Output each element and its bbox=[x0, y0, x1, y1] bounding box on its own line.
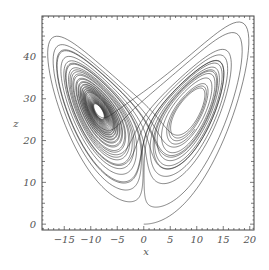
x-tick-label: −15 bbox=[54, 234, 75, 245]
x-tick-label: −5 bbox=[110, 234, 125, 245]
x-tick-label: 10 bbox=[190, 234, 203, 245]
lorenz-plot: −15−10−505101520 010203040 x z bbox=[0, 0, 269, 270]
x-tick-label: 5 bbox=[167, 234, 173, 245]
y-tick-label: 10 bbox=[23, 177, 36, 188]
x-tick-label: −10 bbox=[80, 234, 102, 245]
x-tick-label: 15 bbox=[217, 234, 230, 245]
plot-frame bbox=[42, 16, 254, 230]
x-axis-label: x bbox=[143, 246, 149, 257]
x-tick-label: 20 bbox=[242, 234, 256, 245]
y-tick-label: 30 bbox=[23, 93, 36, 104]
trajectory-curve bbox=[48, 22, 249, 224]
y-axis-label: z bbox=[12, 118, 19, 129]
y-tick-label: 20 bbox=[22, 135, 36, 146]
lorenz-trajectory bbox=[48, 22, 249, 224]
y-tick-label: 0 bbox=[30, 219, 37, 230]
y-tick-label: 40 bbox=[22, 51, 36, 62]
x-tick-label: 0 bbox=[141, 234, 148, 245]
